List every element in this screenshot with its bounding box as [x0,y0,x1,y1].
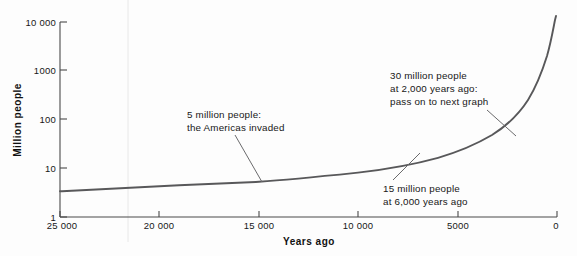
annotation-leader-line-americas [235,135,262,182]
population-log-chart: 10 000 1000 100 10 1 25 000 20 000 15 00… [0,0,577,256]
x-tick-labels: 25 000 20 000 15 000 10 000 5000 0 [47,220,559,231]
annotation-2000-line-3: pass on to next graph [390,96,488,107]
annotation-americas-line-1: 5 million people: [187,109,261,120]
y-tick-label-10000: 10 000 [25,17,56,28]
annotation-americas-invaded: 5 million people: the Americas invaded [187,109,285,182]
annotation-americas-line-2: the Americas invaded [187,122,285,133]
x-tick-label-10000: 10 000 [343,220,374,231]
annotation-two-thousand-years: 30 million people at 2,000 years ago: pa… [390,70,516,136]
x-tick-label-5000: 5000 [447,220,469,231]
annotation-2000-line-1: 30 million people [390,70,467,81]
y-tick-labels: 10 000 1000 100 10 1 [25,17,56,223]
annotation-6000-line-1: 15 million people [383,183,460,194]
annotation-6000-line-2: at 6,000 years ago [383,196,468,207]
chart-page: 10 000 1000 100 10 1 25 000 20 000 15 00… [0,0,577,256]
y-tick-group [60,22,67,217]
x-tick-group [60,211,557,217]
x-tick-label-15000: 15 000 [244,220,275,231]
y-tick-label-10: 10 [45,163,56,174]
annotation-2000-line-2: at 2,000 years ago: [390,83,478,94]
annotation-leader-line-2000 [487,110,516,136]
x-tick-label-0: 0 [553,220,559,231]
x-tick-label-25000: 25 000 [47,220,78,231]
y-axis-title: Million people [12,83,23,157]
x-axis-title: Years ago [283,236,335,247]
y-tick-label-1000: 1000 [34,65,56,76]
x-tick-label-20000: 20 000 [144,220,175,231]
y-tick-label-100: 100 [39,114,56,125]
